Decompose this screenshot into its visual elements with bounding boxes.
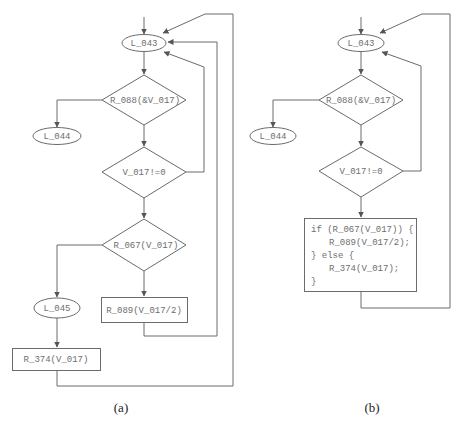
- node-label: L_045: [43, 304, 70, 314]
- edge-v017-loop: [382, 52, 421, 171]
- node-code-block: if (R_067(V_017)) { R_089(V_017/2); } el…: [305, 219, 417, 292]
- flowchart-figure: L_043 R_088(&V_017) L_044 V_017!=0 R_067…: [0, 0, 458, 430]
- caption-b: (b): [364, 400, 379, 415]
- edge-r374-loop: [57, 14, 233, 386]
- node-label: R_089(V_017/2): [106, 306, 182, 316]
- edge-v017-loop: [164, 52, 204, 172]
- edge-r088-l044: [273, 100, 319, 127]
- code-line: }: [311, 277, 316, 287]
- code-line: R_374(V_017);: [329, 264, 399, 274]
- node-r374: R_374(V_017): [13, 349, 101, 371]
- node-label: V_017!=0: [122, 168, 165, 178]
- edge-r088-l044: [57, 100, 102, 127]
- code-line: if (R_067(V_017)) {: [311, 225, 414, 235]
- node-v017: V_017!=0: [102, 147, 186, 198]
- node-label: L_043: [130, 39, 157, 49]
- node-label: R_088(&V_017): [110, 96, 180, 106]
- edge-r067-l045: [57, 245, 102, 297]
- node-r088: R_088(&V_017): [102, 75, 186, 125]
- node-label: R_374(V_017): [24, 355, 89, 365]
- node-label: L_043: [347, 39, 374, 49]
- node-label: R_067(V_017): [114, 241, 179, 251]
- code-line: } else {: [311, 251, 354, 261]
- node-r088: R_088(&V_017): [319, 75, 403, 125]
- node-label: L_044: [43, 132, 70, 142]
- node-r067: R_067(V_017): [102, 219, 186, 271]
- node-label: R_088(&V_017): [326, 96, 396, 106]
- node-label: L_044: [259, 132, 286, 142]
- node-r089: R_089(V_017/2): [102, 298, 188, 323]
- node-l044: L_044: [33, 128, 81, 145]
- panel-b: L_043 R_088(&V_017) L_044 V_017!=0 if (R…: [250, 14, 450, 415]
- panel-a: L_043 R_088(&V_017) L_044 V_017!=0 R_067…: [13, 14, 234, 415]
- node-v017: V_017!=0: [319, 147, 403, 197]
- node-l045: L_045: [34, 298, 80, 318]
- node-label: V_017!=0: [339, 167, 382, 177]
- node-l043: L_043: [122, 35, 166, 52]
- node-l043: L_043: [338, 35, 384, 52]
- code-line: R_089(V_017/2);: [329, 238, 410, 248]
- node-l044: L_044: [250, 128, 296, 145]
- caption-a: (a): [114, 400, 128, 415]
